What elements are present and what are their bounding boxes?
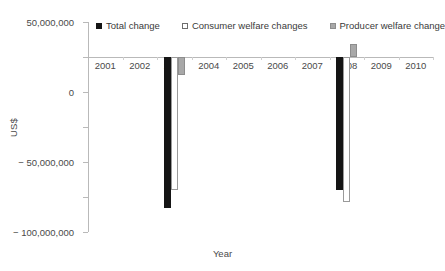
bar-2008-total-change bbox=[336, 57, 343, 190]
y-axis-tick: − 200,000,000 bbox=[83, 197, 88, 198]
x-axis-tick bbox=[192, 57, 193, 60]
y-axis-tick: − 150,000,000 bbox=[83, 162, 88, 163]
x-axis-tick bbox=[226, 57, 227, 60]
x-axis-tick-label: 2009 bbox=[371, 60, 392, 71]
x-axis-tick bbox=[399, 57, 400, 60]
x-axis-tick-label: 2006 bbox=[267, 60, 288, 71]
plot-area: 50,000,0000− 50,000,000− 100,000,000− 15… bbox=[88, 22, 433, 232]
y-axis-title: US$ bbox=[8, 103, 19, 153]
bar-chart: US$ Total change Consumer welfare change… bbox=[0, 0, 445, 271]
x-axis-tick-label: 2001 bbox=[95, 60, 116, 71]
bar-2003-total-change bbox=[164, 57, 171, 208]
x-axis-tick bbox=[330, 57, 331, 60]
y-axis-tick: 0 bbox=[83, 57, 88, 58]
x-axis-tick bbox=[123, 57, 124, 60]
y-axis-tick-label: − 100,000,000 bbox=[13, 227, 74, 238]
x-axis-tick bbox=[433, 57, 434, 60]
x-axis-tick-label: 2007 bbox=[302, 60, 323, 71]
x-axis-tick-label: 2005 bbox=[233, 60, 254, 71]
y-axis-tick-label: 0 bbox=[69, 87, 74, 98]
x-axis-tick bbox=[364, 57, 365, 60]
x-axis-tick bbox=[295, 57, 296, 60]
x-axis-tick-label: 2002 bbox=[129, 60, 150, 71]
y-axis-tick: − 50,000,000 bbox=[83, 92, 88, 93]
y-axis-tick: 50,000,000 bbox=[83, 22, 88, 23]
bar-2008-producer-welfare-changes bbox=[350, 44, 357, 57]
bar-2003-consumer-welfare-changes bbox=[171, 57, 178, 190]
bar-2003-producer-welfare-changes bbox=[178, 57, 185, 75]
x-axis-tick bbox=[157, 57, 158, 60]
x-axis-tick bbox=[261, 57, 262, 60]
x-axis-tick-label: 2010 bbox=[405, 60, 426, 71]
x-axis-title: Year bbox=[0, 248, 445, 259]
y-axis-line bbox=[88, 22, 89, 232]
x-axis-tick-label: 2004 bbox=[198, 60, 219, 71]
y-axis-tick-label: 50,000,000 bbox=[26, 17, 74, 28]
y-axis-tick-label: − 50,000,000 bbox=[18, 157, 74, 168]
y-axis-tick: − 250,000,000 bbox=[83, 232, 88, 233]
y-axis-tick: − 100,000,000 bbox=[83, 127, 88, 128]
bar-2008-consumer-welfare-changes bbox=[343, 57, 350, 202]
